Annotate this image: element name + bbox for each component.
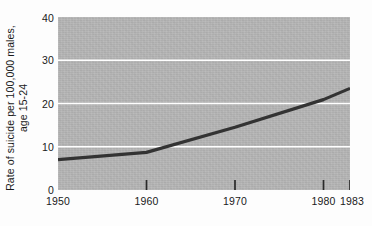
y-tick-label-30: 30 [28,54,54,66]
y-axis-title: Rate of suicide per 100,000 males, age 1… [0,0,30,200]
x-tick-label-1970: 1970 [223,195,247,207]
x-tick-label-1950: 1950 [46,195,70,207]
y-tick-label-20: 20 [28,98,54,110]
x-tick-label-1960: 1960 [135,195,159,207]
x-tick-label-1983: 1983 [340,195,364,207]
y-tick-label-40: 40 [28,12,54,24]
plot-area [58,17,350,190]
y-tick-label-10: 10 [28,141,54,153]
x-tick-label-1980: 1980 [312,195,336,207]
y-axis-title-line1: Rate of suicide per 100,000 males, [4,25,16,191]
x-tick-marks [147,180,351,190]
plot-svg [58,17,350,190]
chart-figure: Rate of suicide per 100,000 males, age 1… [0,0,372,226]
data-series-line [58,88,350,159]
